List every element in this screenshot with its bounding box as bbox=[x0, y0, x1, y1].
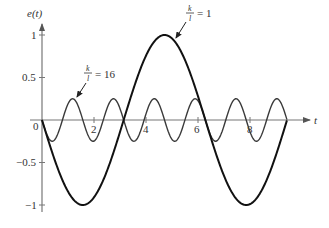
x-tick-label-4: 4 bbox=[143, 123, 149, 135]
origin-label: 0 bbox=[33, 120, 39, 132]
annotation-2-denominator: l bbox=[87, 74, 90, 83]
annotation-2-numerator: k bbox=[86, 64, 90, 73]
y-tick-label-neg-0.5: −0.5 bbox=[16, 156, 36, 168]
y-tick-label-0.5: 0.5 bbox=[22, 71, 36, 83]
y-tick-label-1: 1 bbox=[31, 29, 37, 41]
annotation-1-numerator: k bbox=[188, 4, 192, 13]
annotation-1-value: = 1 bbox=[197, 7, 211, 19]
x-tick-label-6: 6 bbox=[194, 123, 200, 135]
annotation-2-value: = 16 bbox=[95, 68, 115, 80]
annotation-1-denominator: l bbox=[189, 14, 192, 23]
y-axis-label: e(t) bbox=[27, 7, 43, 20]
annotation-2-arrow bbox=[77, 83, 86, 97]
x-tick-label-2: 2 bbox=[91, 123, 97, 135]
chart: e(t) t 0 2 4 6 8 1 0.5 −0.5 −1 k l = 1 k… bbox=[0, 0, 329, 228]
annotation-k-over-l-1: k l = 1 bbox=[176, 4, 211, 38]
annotation-k-over-l-16: k l = 16 bbox=[77, 64, 115, 97]
y-tick-label-neg-1: −1 bbox=[25, 199, 37, 211]
annotation-1-arrow bbox=[176, 22, 186, 38]
x-axis-label: t bbox=[314, 114, 318, 126]
